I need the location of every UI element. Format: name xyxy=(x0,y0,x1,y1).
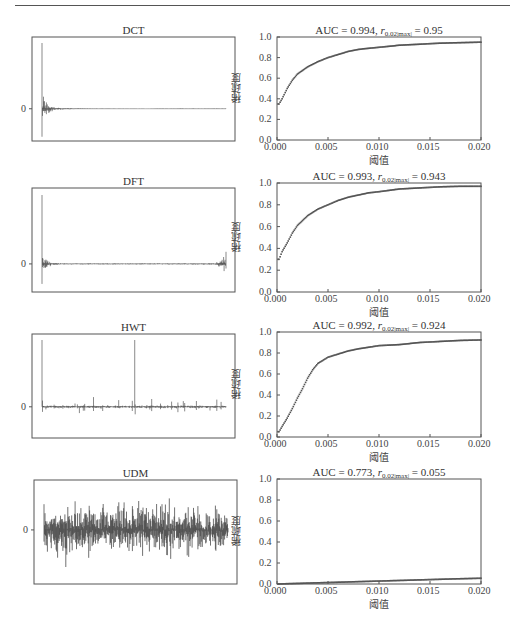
x-tick-label: 0.000 xyxy=(264,585,287,596)
x-tick-label: 0.005 xyxy=(315,585,338,596)
y-tick-label: 0.8 xyxy=(259,494,272,505)
y-tick-label: 1.0 xyxy=(259,473,272,484)
sparsity-curve-plot xyxy=(0,0,515,624)
y-tick-label: 0.6 xyxy=(259,515,272,526)
x-tick-label: 0.020 xyxy=(468,585,491,596)
y-tick-label: 0.4 xyxy=(259,536,272,547)
x-tick-label: 0.015 xyxy=(417,585,440,596)
x-tick-label: 0.010 xyxy=(366,585,389,596)
y-tick-label: 0.2 xyxy=(259,557,272,568)
